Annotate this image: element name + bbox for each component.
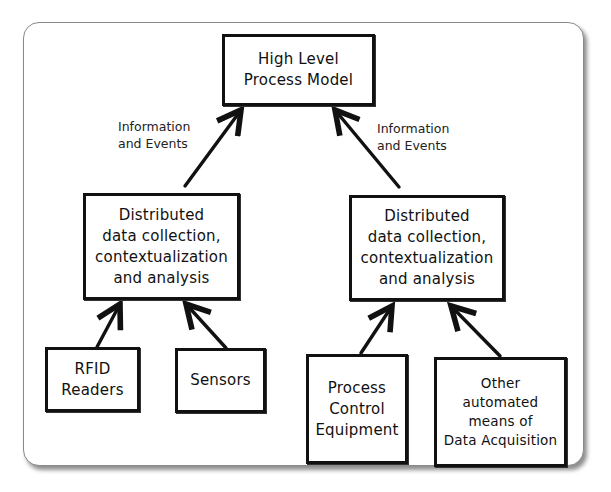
node-process-control-equipment: Process Control Equipment — [306, 354, 408, 464]
node-other-automated-means: Other automated means of Data Acquisitio… — [434, 357, 567, 467]
arrow-other-to-midright — [451, 306, 500, 356]
node-label: Other automated means of Data Acquisitio… — [444, 374, 558, 450]
node-label: High Level Process Model — [244, 49, 353, 91]
node-high-level-process-model: High Level Process Model — [222, 34, 375, 106]
arrow-midleft-to-top — [185, 110, 241, 186]
node-label: RFID Readers — [61, 359, 123, 401]
node-distributed-left: Distributed data collection, contextuali… — [83, 193, 240, 300]
node-rfid-readers: RFID Readers — [45, 347, 140, 412]
edge-label-left: Information and Events — [118, 118, 190, 152]
arrow-sensors-to-midleft — [186, 304, 226, 348]
arrow-rfid-to-midleft — [97, 304, 120, 347]
edge-label-right: Information and Events — [377, 120, 449, 154]
node-distributed-right: Distributed data collection, contextuali… — [349, 195, 505, 301]
node-label: Distributed data collection, contextuali… — [361, 206, 494, 290]
node-label: Process Control Equipment — [315, 378, 398, 441]
node-label: Distributed data collection, contextuali… — [95, 205, 228, 289]
node-label: Sensors — [190, 370, 251, 391]
node-sensors: Sensors — [175, 348, 266, 413]
arrow-process-to-midright — [361, 306, 392, 353]
